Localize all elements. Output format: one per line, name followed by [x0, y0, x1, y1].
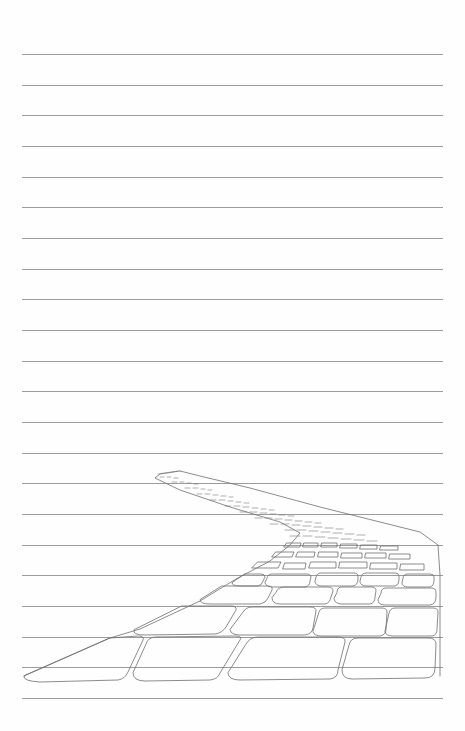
- cobblestone-path-sketch: [0, 0, 465, 731]
- path-outline-left: [24, 471, 300, 676]
- lined-paper: [0, 0, 465, 731]
- path-outline-right: [180, 471, 440, 676]
